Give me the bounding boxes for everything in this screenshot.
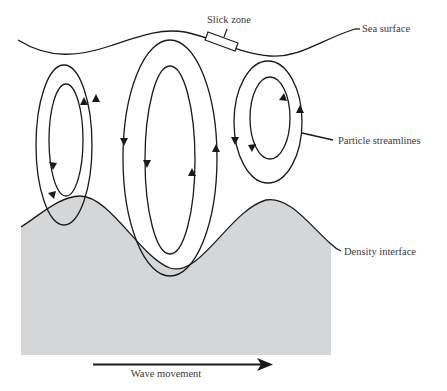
- arrow-down-icon: [231, 137, 239, 145]
- arrow-down-icon: [48, 191, 56, 199]
- streamlines-leader: [302, 133, 333, 140]
- arrow-down-icon: [143, 160, 151, 168]
- arrow-up-icon: [92, 94, 100, 102]
- slick-zone-label: Slick zone: [207, 14, 251, 25]
- arrow-up-icon: [296, 105, 304, 113]
- arrow-up-icon: [212, 144, 220, 152]
- sea-surface-label: Sea surface: [362, 23, 410, 34]
- slick-zone-marker: [205, 29, 238, 51]
- sea-surface-line: [18, 29, 355, 56]
- right-streamline-cell: [231, 61, 304, 183]
- arrow-down-icon: [49, 162, 57, 170]
- density-interface-label: Density interface: [344, 246, 416, 257]
- wave-movement-label: Wave movement: [131, 368, 202, 379]
- internal-wave-diagram: Slick zone Sea surface Particle streamli…: [0, 0, 447, 391]
- particle-streamlines-label: Particle streamlines: [338, 135, 421, 146]
- arrow-down-icon: [248, 144, 256, 152]
- arrow-down-icon: [120, 138, 128, 146]
